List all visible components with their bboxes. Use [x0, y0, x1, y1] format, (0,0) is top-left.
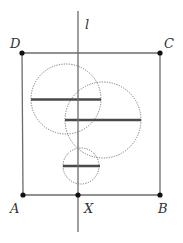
- point-X: [75, 192, 80, 197]
- label-D: D: [9, 36, 21, 51]
- label-C: C: [164, 36, 174, 51]
- label-A: A: [9, 201, 19, 216]
- point-D: [19, 50, 24, 55]
- label-X: X: [83, 201, 94, 216]
- point-C: [157, 50, 162, 55]
- point-B: [157, 192, 162, 197]
- side-DA: [22, 53, 23, 195]
- geometry-diagram: l D C A B X: [0, 0, 183, 243]
- label-B: B: [157, 201, 168, 216]
- point-A: [20, 192, 25, 197]
- label-l: l: [85, 17, 89, 32]
